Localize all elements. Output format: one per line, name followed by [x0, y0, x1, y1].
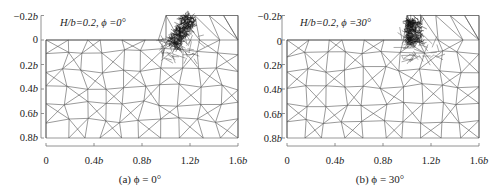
- y-tick-label: 0.4b: [2, 83, 38, 95]
- panel-a: H/b=0.2, ϕ =0° −0.2b 0 0.2b 0.4b 0.6b 0.…: [0, 0, 250, 192]
- x-tick-label: 1.6b: [459, 155, 499, 167]
- y-tick-label: −0.2b: [2, 11, 38, 23]
- x-tick-label: 0.8b: [122, 155, 162, 167]
- x-tick-label: 1.2b: [411, 155, 451, 167]
- y-tick-label: 0.6b: [246, 109, 282, 121]
- y-tick-label: 0.2b: [2, 60, 38, 72]
- y-tick-label: 0.4b: [246, 84, 282, 96]
- y-tick-label: 0: [246, 36, 282, 48]
- x-tick-label: 0.4b: [74, 155, 114, 167]
- panel-b: H/b=0.2, ϕ =30° −0.2b 0 0.2b 0.4b 0.6b 0…: [250, 0, 501, 192]
- x-tick-label: 1.2b: [170, 155, 210, 167]
- y-tick-label: 0: [2, 34, 38, 46]
- x-tick-label: 0: [267, 155, 307, 167]
- y-tick-label: 0.2b: [246, 60, 282, 72]
- annotation-a: H/b=0.2, ϕ =0°: [60, 17, 126, 29]
- y-tick-label: 0.8b: [246, 133, 282, 145]
- annotation-b: H/b=0.2, ϕ =30°: [300, 17, 371, 29]
- y-tick-label: −0.2b: [246, 11, 282, 23]
- y-tick-label: 0.6b: [2, 108, 38, 120]
- caption-b: (b) ϕ = 30°: [280, 173, 480, 186]
- x-tick-label: 0.8b: [363, 155, 403, 167]
- x-tick-label: 0.4b: [315, 155, 355, 167]
- y-tick-label: 0.8b: [2, 132, 38, 144]
- x-tick-label: 0: [26, 155, 66, 167]
- caption-a: (a) ϕ = 0°: [40, 173, 240, 186]
